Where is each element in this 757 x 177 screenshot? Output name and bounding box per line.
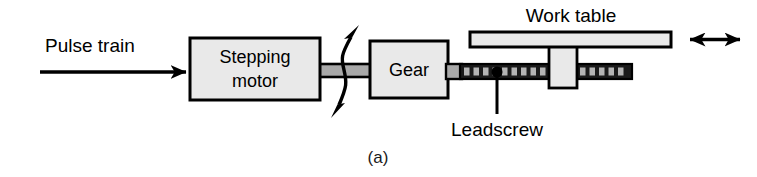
rotation-arrow-head-down [331, 97, 345, 118]
gear-block: Gear [370, 41, 448, 98]
work-table-box [470, 32, 671, 47]
leadscrew-label: Leadscrew [451, 119, 543, 140]
stepping-motor-block: Stepping motor [190, 38, 320, 100]
positioning-system-diagram: Pulse train Stepping motor Gear [0, 0, 757, 177]
figure-container: Pulse train Stepping motor Gear [0, 0, 757, 177]
leadscrew [446, 64, 632, 79]
stepping-motor-label-line1: Stepping [219, 47, 290, 67]
gear-label: Gear [389, 60, 429, 80]
stepping-motor-label-line2: motor [232, 71, 278, 91]
pulse-train-label: Pulse train [45, 35, 135, 56]
work-table-plate [470, 32, 671, 47]
figure-caption: (a) [368, 148, 389, 167]
rotation-arrow-head-up [344, 25, 359, 45]
leadscrew-thread-left-teeth [464, 68, 546, 76]
leadscrew-callout [492, 67, 503, 115]
slider-nut-box [549, 45, 577, 88]
work-table-label: Work table [526, 5, 616, 26]
slider-nut-block [549, 45, 577, 88]
